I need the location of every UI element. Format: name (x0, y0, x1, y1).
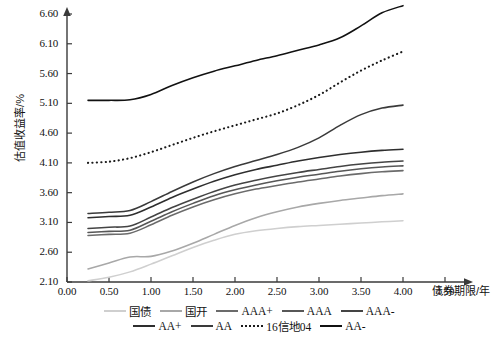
x-tick-label: 2.50 (257, 285, 297, 297)
y-axis-arrow (63, 7, 71, 16)
legend-item-AAA[interactable]: AAA (282, 305, 332, 317)
legend-label: AAA+ (241, 305, 272, 317)
x-tick-label: 2.00 (215, 285, 255, 297)
legend-item-国开[interactable]: 国开 (160, 303, 207, 319)
plot-area (0, 0, 499, 310)
series-line-AAA+ (88, 171, 403, 236)
legend-label: AA (216, 320, 233, 332)
legend-item-AAA-[interactable]: AAA- (341, 305, 395, 317)
y-tick-label: 2.60 (18, 245, 58, 257)
legend-item-16信地04[interactable]: 16信地04 (241, 318, 311, 334)
y-tick-label: 6.10 (18, 37, 58, 49)
legend-label: 国开 (185, 303, 207, 319)
legend-swatch-AA+ (133, 325, 155, 327)
legend-label: AAA- (366, 305, 395, 317)
axis-ticks (67, 14, 445, 282)
legend-label: AA+ (158, 320, 181, 332)
x-axis-label: 债券期限/年 (432, 282, 490, 298)
data-series-group (88, 6, 403, 281)
legend-item-国债[interactable]: 国债 (104, 303, 151, 319)
legend-item-AA[interactable]: AA (191, 320, 233, 332)
x-tick-label: 0.00 (47, 285, 87, 297)
y-tick-label: 3.60 (18, 186, 58, 198)
series-line-AA- (88, 6, 403, 101)
legend-item-AAA+[interactable]: AAA+ (216, 305, 272, 317)
legend-swatch-AAA+ (216, 310, 238, 312)
legend-row-1: 国债国开AAA+AAAAAA- (0, 303, 499, 318)
legend-swatch-国债 (104, 310, 126, 312)
series-line-AA+ (88, 149, 403, 217)
x-tick-label: 1.00 (131, 285, 171, 297)
figure-caption (0, 336, 499, 349)
x-tick-label: 3.50 (341, 285, 381, 297)
legend-label: 国债 (129, 303, 151, 319)
series-line-国债 (88, 221, 403, 281)
legend-swatch-AAA (282, 310, 304, 312)
legend-swatch-国开 (160, 310, 182, 312)
x-tick-label: 1.50 (173, 285, 213, 297)
legend-swatch-AA (191, 325, 213, 327)
legend-item-AA-[interactable]: AA- (320, 320, 365, 332)
bond-yield-curve-chart: 2.102.603.103.604.104.605.105.606.106.60… (0, 0, 499, 349)
series-line-16信地04 (88, 52, 403, 163)
x-tick-label: 0.50 (89, 285, 129, 297)
legend-label: AAA (307, 305, 332, 317)
chart-legend: 国债国开AAA+AAAAAA- AA+AA16信地04AA- (0, 303, 499, 333)
legend-swatch-16信地04 (241, 325, 263, 327)
legend-item-AA+[interactable]: AA+ (133, 320, 181, 332)
x-tick-label: 4.00 (383, 285, 423, 297)
series-line-AA (88, 105, 403, 213)
y-tick-label: 3.10 (18, 215, 58, 227)
legend-label: AA- (345, 320, 365, 332)
y-axis-label: 估值收益率/% (11, 73, 27, 183)
x-tick-label: 3.00 (299, 285, 339, 297)
axes (63, 7, 473, 286)
y-tick-label: 6.60 (18, 7, 58, 19)
legend-label: 16信地04 (266, 318, 311, 334)
legend-row-2: AA+AA16信地04AA- (0, 318, 499, 333)
legend-swatch-AAA- (341, 310, 363, 312)
legend-swatch-AA- (320, 325, 342, 327)
